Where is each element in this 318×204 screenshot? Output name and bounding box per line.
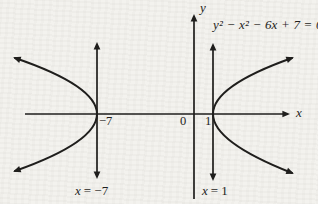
tick-label-neg7: −7 [99, 114, 112, 129]
asymptote-right-value: = 1 [211, 183, 228, 198]
asymptote-label-x-neg7: x= −7 [75, 183, 108, 198]
figure-canvas: y² − x² − 6x + 7 = 0 y x 0 −7 1 x= −7 x=… [0, 0, 318, 204]
origin-tick-label: 0 [180, 114, 186, 129]
asymptote-left-value: = −7 [84, 183, 108, 198]
y-axis-label: y [200, 0, 206, 15]
asymptote-right-variable: x [202, 183, 208, 198]
asymptote-label-x-1: x= 1 [202, 183, 228, 198]
asymptote-left-variable: x [75, 183, 81, 198]
x-axis-label: x [296, 105, 302, 120]
equation-label: y² − x² − 6x + 7 = 0 [213, 17, 318, 32]
curve-right-branch [213, 58, 292, 173]
tick-label-1: 1 [205, 114, 211, 129]
